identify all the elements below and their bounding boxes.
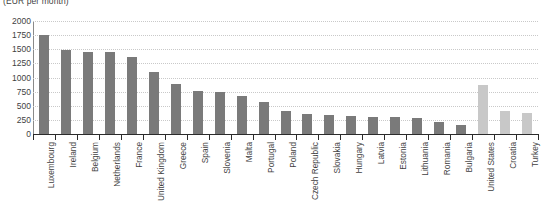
x-axis-category-label: Croatia <box>509 142 518 169</box>
y-axis-tick-label: 500 <box>1 102 31 110</box>
x-axis-category-label: Luxembourg <box>47 142 56 188</box>
bar <box>149 72 159 134</box>
x-axis-category-label: Bulgaria <box>465 142 474 172</box>
bar-chart: (EUR per month) 025050075010001250150017… <box>0 0 541 211</box>
x-axis-category-label: Portugal <box>267 142 276 173</box>
bar <box>434 122 444 134</box>
x-axis-category-label: United Kingdom <box>157 142 166 201</box>
x-axis-category-label: Spain <box>201 142 210 163</box>
x-axis-category-label: Slovenia <box>223 142 232 174</box>
bar <box>171 84 181 134</box>
bar <box>500 111 510 134</box>
y-axis-tick-label: 1750 <box>1 31 31 39</box>
x-axis-category-label: Hungary <box>355 142 364 173</box>
bar <box>324 115 334 134</box>
bar <box>39 35 49 134</box>
x-axis-category-label: Poland <box>289 142 298 168</box>
chart-title: (EUR per month) <box>3 0 69 6</box>
bar-series <box>33 21 538 134</box>
plot-area <box>33 21 538 134</box>
x-axis-category-label: Greece <box>179 142 188 169</box>
bar <box>215 92 225 134</box>
x-axis-category-label: France <box>135 142 144 168</box>
x-axis-category-label: Czech Republic <box>311 142 320 200</box>
bar <box>522 113 532 134</box>
bar <box>281 111 291 134</box>
x-axis-category-label: Belgium <box>91 142 100 172</box>
x-axis-category-label: Ireland <box>69 142 78 167</box>
x-axis-category-label: Romania <box>443 142 452 175</box>
y-axis-tick-label: 1250 <box>1 59 31 67</box>
bar <box>346 116 356 134</box>
bar <box>237 96 247 134</box>
x-axis-category-label: Lithuania <box>421 142 430 176</box>
bar <box>456 125 466 134</box>
y-axis-tick-label: 2000 <box>1 17 31 25</box>
x-axis-category-label: Slovakia <box>333 142 342 173</box>
bar <box>83 52 93 134</box>
bar <box>412 118 422 134</box>
bar <box>302 114 312 134</box>
x-axis-category-label: Malta <box>245 142 254 162</box>
x-axis-category-labels: LuxembourgIrelandBelgiumNetherlandsFranc… <box>33 140 539 211</box>
bar <box>390 117 400 134</box>
bar <box>478 85 488 134</box>
y-axis-tick-label: 750 <box>1 88 31 96</box>
y-axis-tick-label: 1000 <box>1 74 31 82</box>
y-axis-tick-labels: 025050075010001250150017502000 <box>0 21 31 134</box>
bar <box>127 57 137 134</box>
x-axis-category-label: Netherlands <box>113 142 122 187</box>
bar <box>61 50 71 134</box>
bar <box>105 52 115 134</box>
bar <box>259 102 269 134</box>
x-axis-category-label: Turkey <box>531 142 540 167</box>
y-axis-tick-label: 1500 <box>1 45 31 53</box>
y-axis-tick-label: 250 <box>1 116 31 124</box>
bar <box>368 117 378 135</box>
bar <box>193 91 203 134</box>
y-axis-tick-label: 0 <box>1 130 31 138</box>
x-axis-category-label: Latvia <box>377 142 386 164</box>
x-axis-category-label: United States <box>487 142 496 192</box>
x-axis-category-label: Estonia <box>399 142 408 170</box>
